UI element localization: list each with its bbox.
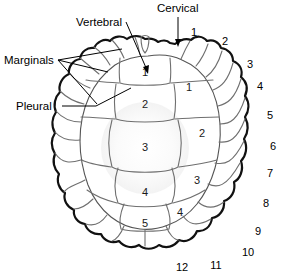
marginal-number-8: 8 xyxy=(263,197,269,209)
vertebral-number-5: 5 xyxy=(142,217,148,229)
marginal-number-12: 12 xyxy=(176,261,188,273)
marginal-number-1: 1 xyxy=(191,26,197,38)
vertebral-leader-line xyxy=(126,22,147,70)
vertebral-numbers: 1 2 3 4 5 xyxy=(142,66,148,229)
vertebral-number-4: 4 xyxy=(142,186,148,198)
marginal-number-10: 10 xyxy=(242,246,254,258)
pleural-label: Pleural xyxy=(16,100,52,112)
pleural-number-2: 2 xyxy=(199,127,205,139)
vertebral-number-2: 2 xyxy=(142,98,148,110)
marginals-leader-line-1 xyxy=(58,49,122,60)
marginals-label: Marginals xyxy=(4,54,54,66)
marginal-number-9: 9 xyxy=(255,225,261,237)
diagram-canvas: 1 2 3 4 5 1 2 3 4 1 2 3 4 5 6 7 8 9 10 1… xyxy=(0,0,285,277)
marginal-number-2: 2 xyxy=(222,35,228,47)
pleural-number-4: 4 xyxy=(177,206,183,218)
marginal-number-3: 3 xyxy=(247,58,253,70)
marginals-leader-line-2 xyxy=(58,60,108,72)
cervical-label: Cervical xyxy=(157,2,199,14)
pleural-number-3: 3 xyxy=(194,174,200,186)
vertebral-label: Vertebral xyxy=(76,16,122,28)
pleural-number-1: 1 xyxy=(186,81,192,93)
marginal-number-4: 4 xyxy=(257,80,263,92)
vertebral-number-3: 3 xyxy=(142,141,148,153)
marginal-number-7: 7 xyxy=(267,167,273,179)
marginal-number-11: 11 xyxy=(210,259,221,271)
marginal-number-5: 5 xyxy=(267,109,273,121)
marginal-numbers: 1 2 3 4 5 6 7 8 9 10 11 12 xyxy=(176,26,276,273)
marginals-leader-line-3 xyxy=(58,60,97,104)
marginal-number-6: 6 xyxy=(270,140,276,152)
